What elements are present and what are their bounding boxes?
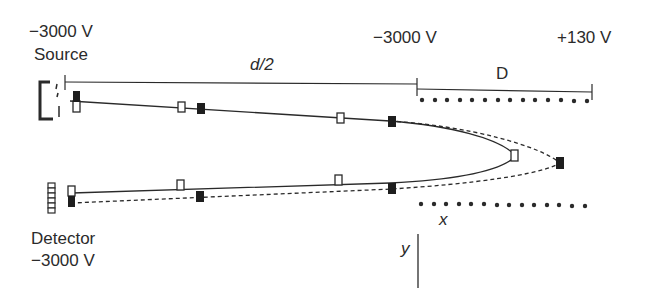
- x-axis-label: x: [439, 210, 448, 229]
- reflectron-grid-top: [420, 98, 589, 103]
- dimension-lines: [65, 75, 592, 100]
- reflectron-entrance-voltage-label: −3000 V: [373, 28, 437, 47]
- detector-icon: [48, 183, 55, 213]
- diagram-svg: [0, 0, 653, 290]
- detector-voltage-label: −3000 V: [31, 251, 95, 270]
- source-label: Source: [34, 45, 88, 64]
- reflectron-depth-label: D: [496, 64, 508, 83]
- filled-square-markers: [68, 91, 564, 207]
- slow-ion-path: [70, 101, 516, 193]
- source-bracket-icon: [40, 82, 59, 119]
- drift-length-label: d/2: [250, 55, 274, 74]
- source-voltage-label: −3000 V: [29, 22, 93, 41]
- detector-label: Detector: [31, 229, 95, 248]
- y-axis-label: y: [401, 239, 410, 258]
- reflectron-end-voltage-label: +130 V: [557, 28, 611, 47]
- reflectron-grid-bottom: [419, 202, 587, 208]
